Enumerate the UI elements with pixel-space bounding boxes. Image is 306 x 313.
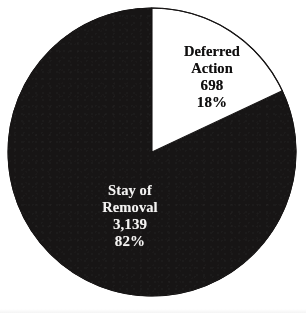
pie-chart-figure: Deferred Action 698 18% Stay of Removal … [0,0,306,313]
pie-chart-svg [0,0,306,313]
